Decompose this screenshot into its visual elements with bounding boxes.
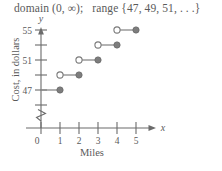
x-tick-label-2: 2 [77,136,82,146]
open-endpoint-53 [95,42,101,48]
x-tick-label-0: 0 [35,136,40,146]
closed-endpoint-53 [114,42,120,48]
y-axis-arrowhead [38,27,44,35]
x-tick-label-4: 4 [115,136,120,146]
closed-endpoint-49 [76,72,82,78]
open-endpoint-55 [114,27,120,33]
closed-endpoint-55 [133,27,139,33]
x-axis-arrowhead [149,125,157,131]
y-axis-symbol: y [38,16,44,24]
x-tick-label-3: 3 [96,136,101,146]
x-tick-label-1: 1 [58,136,63,146]
open-endpoint-51 [76,57,82,63]
closed-endpoint-51 [95,57,101,63]
x-tick-label-5: 5 [134,136,139,146]
closed-endpoint-47 [57,87,63,93]
y-axis-title: Cost, in dollars [10,24,21,116]
y-tick-label-47: 47 [23,86,33,96]
range-answer: range {47, 49, 51, . . .} [92,2,200,14]
x-axis-title: Miles [52,147,132,158]
domain-answer: domain (0, ∞); [14,2,83,14]
open-endpoint-49 [57,72,63,78]
x-axis-symbol: x [160,122,166,133]
y-tick-label-55: 55 [23,26,33,36]
step-function-graph: Cost, in dollars Miles 47 51 55 0 1 [0,16,222,171]
answer-text-line: domain (0, ∞);range {47, 49, 51, . . .} [14,2,200,14]
y-tick-label-51: 51 [23,56,33,66]
